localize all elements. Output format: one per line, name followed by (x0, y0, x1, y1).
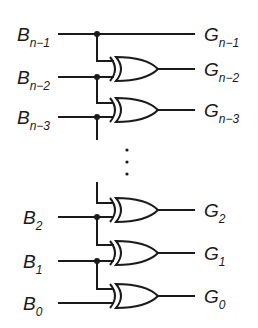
xor-gate (110, 241, 158, 265)
label-g-n-1: Gn−1 (204, 24, 239, 50)
label-b-n-1: Bn−1 (17, 24, 50, 50)
ellipsis-dot (125, 148, 128, 151)
label-b-n-3: Bn−3 (17, 107, 50, 133)
xor-gate (110, 284, 158, 308)
label-g-0: G0 (204, 286, 226, 312)
label-b-n-2: Bn−2 (17, 67, 50, 93)
label-g-n-3: Gn−3 (204, 100, 239, 126)
gray-code-converter-diagram: Bn−1 Bn−2 Bn−3 B2 B1 B0 Gn−1 Gn−2 Gn−3 G… (0, 0, 258, 328)
xor-gate (110, 57, 158, 81)
label-g-1: G1 (204, 243, 225, 269)
xor-gate (110, 198, 158, 222)
label-g-2: G2 (204, 200, 226, 226)
xor-gate (110, 98, 158, 122)
label-b-2: B2 (23, 207, 43, 233)
label-b-0: B0 (23, 293, 43, 319)
label-b-1: B1 (23, 251, 42, 277)
ellipsis-dot (125, 160, 128, 163)
wire-feed (97, 34, 114, 61)
label-g-n-2: Gn−2 (204, 59, 239, 85)
ellipsis-dot (125, 172, 128, 175)
